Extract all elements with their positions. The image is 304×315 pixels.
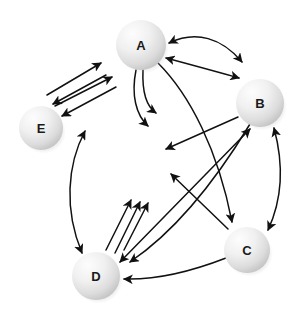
graph-diagram: ABCDE [0,0,304,315]
edge-a-to-e [62,87,116,116]
edge-c-to-d [124,258,226,279]
node-d[interactable]: D [72,252,123,304]
edge-a-to-e [53,75,106,104]
edge-b-to-c [268,128,280,230]
edge-b-to-a [166,58,239,78]
node-sphere[interactable] [19,106,63,150]
node-b[interactable]: B [236,79,287,131]
edge-e-to-a [55,77,112,106]
node-sphere[interactable] [224,227,270,273]
node-c[interactable]: C [224,227,273,277]
node-sphere[interactable] [72,252,120,300]
node-a[interactable]: A [116,20,169,74]
diagram-canvas: ABCDE [0,0,304,315]
edge-e-to-a [47,63,101,95]
node-sphere[interactable] [236,79,284,127]
nodes-layer: ABCDE [19,20,287,304]
edge-a-to-b [169,37,242,62]
edge-b-to-center [166,117,238,149]
node-e[interactable]: E [19,106,66,154]
edge-d-to-e [70,131,85,253]
node-sphere[interactable] [116,20,166,70]
edge-a-to-a [143,70,156,113]
